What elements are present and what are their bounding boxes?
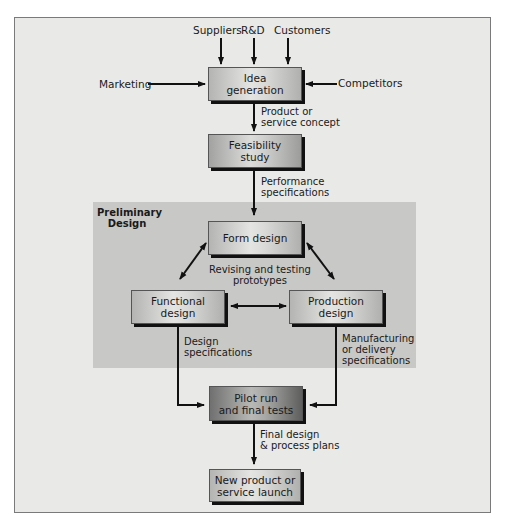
label-final: Final design & process plans: [260, 429, 339, 451]
edge-label-line: specifications: [184, 347, 252, 358]
node-label: Pilot run: [219, 392, 294, 404]
edge-label-line: specifications: [261, 187, 329, 198]
edge-label-line: Design: [184, 336, 252, 347]
node-label: Feasibility: [229, 139, 282, 151]
label-revising: Revising and testing prototypes: [209, 264, 311, 286]
input-competitors: Competitors: [338, 78, 402, 89]
node-label: Production: [308, 295, 364, 307]
label-performance: Performance specifications: [261, 176, 329, 198]
node-launch: New product orservice launch: [209, 469, 301, 502]
input-suppliers: Suppliers: [193, 25, 242, 36]
label-concept: Product or service concept: [261, 106, 340, 128]
node-production-design: Productiondesign: [289, 290, 383, 324]
node-pilot-run: Pilot runand final tests: [209, 386, 303, 421]
edge-label-line: Product or: [261, 106, 340, 117]
node-functional-design: Functionaldesign: [131, 290, 225, 324]
node-label: design: [151, 307, 205, 319]
node-label: Form design: [223, 232, 288, 244]
node-feasibility-study: Feasibilitystudy: [208, 134, 302, 168]
edge-label-line: specifications: [342, 355, 414, 366]
node-label: generation: [226, 84, 283, 96]
edge-label-line: Performance: [261, 176, 329, 187]
node-label: Idea: [226, 72, 283, 84]
label-mfg-specs: Manufacturing or delivery specifications: [342, 333, 414, 366]
edge-label-line: or delivery: [342, 344, 414, 355]
edge-label-line: Revising and testing: [209, 264, 311, 275]
input-rnd: R&D: [241, 25, 265, 36]
edge-label-line: & process plans: [260, 440, 339, 451]
node-label: New product or: [215, 474, 296, 486]
edge-label-line: Final design: [260, 429, 339, 440]
edge-label-line: prototypes: [209, 275, 311, 286]
edge-label-line: service concept: [261, 117, 340, 128]
node-label: design: [308, 307, 364, 319]
node-label: study: [229, 151, 282, 163]
edge-label-line: Manufacturing: [342, 333, 414, 344]
node-form-design: Form design: [208, 221, 302, 255]
input-customers: Customers: [274, 25, 330, 36]
node-label: Functional: [151, 295, 205, 307]
label-design-specs: Design specifications: [184, 336, 252, 358]
input-marketing: Marketing: [99, 79, 151, 90]
node-label: and final tests: [219, 404, 294, 416]
node-label: service launch: [215, 486, 296, 498]
node-idea-generation: Ideageneration: [208, 67, 302, 101]
